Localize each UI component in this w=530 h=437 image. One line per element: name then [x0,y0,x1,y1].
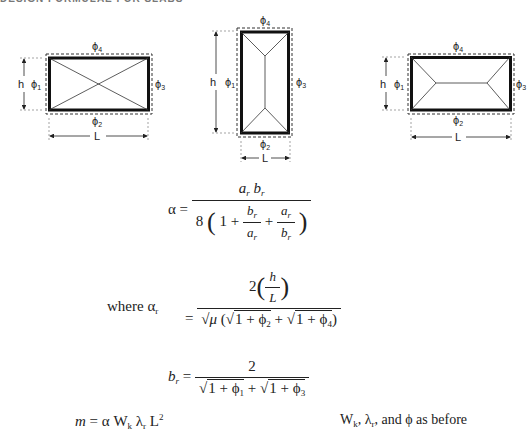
phi2-label: ϕ2 [453,114,463,127]
yield-line [241,32,265,56]
phi1-label: ϕ1 [394,78,404,91]
phi3-label: ϕ3 [516,78,526,91]
diagram-wide: h L ϕ4 ϕ2 ϕ1 ϕ3 [380,40,526,143]
phi3-label: ϕ3 [296,76,306,89]
ar-denominator: √μ (√1 + ϕ2 + √1 + ϕ4) [197,308,341,329]
alpha-lhs: α = [168,201,188,217]
h-label: h [210,76,216,88]
slab-edge [412,58,511,111]
phi1-label: ϕ1 [225,76,235,89]
phi3-label: ϕ3 [155,78,165,91]
br-denominator: √1 + ϕ1 + √1 + ϕ3 [195,377,309,398]
phi1-label: ϕ1 [31,78,41,91]
variables-note: Wk, λr, and ϕ as before [340,412,467,429]
phi2-label: ϕ2 [260,138,270,151]
diagram-tall: h L ϕ4 ϕ2 ϕ1 ϕ3 [210,14,306,164]
alpha-numerator: ar br [192,180,312,200]
phi4-label: ϕ4 [453,40,463,53]
phi4-label: ϕ4 [260,14,270,27]
alpha-formula: α = ar br 8 ( 1 + brar + arbr ) [168,180,311,242]
h-label: h [18,78,24,90]
ar-where-label: where αr [107,298,158,316]
support-boundary [237,28,292,137]
phi4-label: ϕ4 [92,40,102,53]
moment-formula: m = α Wk λr L2 [75,412,164,431]
ar-numerator: 2(hL) [197,269,341,308]
l-label: L [262,152,268,164]
h-label: h [380,78,386,90]
phi2-label: ϕ2 [92,115,102,128]
br-numerator: 2 [195,358,309,377]
support-boundary [408,54,514,114]
diagram-diagonal: h L ϕ4 ϕ2 ϕ1 ϕ3 [18,40,165,142]
ar-fraction: 2(hL) √μ (√1 + ϕ2 + √1 + ϕ4) [197,269,341,329]
br-formula: br = 2 √1 + ϕ1 + √1 + ϕ3 [168,358,309,398]
l-label: L [455,131,461,143]
l-label: L [94,130,100,142]
yield-line [411,57,436,83]
ar-formula: = 2(hL) √μ (√1 + ϕ2 + √1 + ϕ4) [185,269,341,329]
alpha-denominator: 8 ( 1 + brar + arbr ) [192,200,312,242]
alpha-fraction: ar br 8 ( 1 + brar + arbr ) [192,180,312,242]
br-fraction: 2 √1 + ϕ1 + √1 + ϕ3 [195,358,309,398]
yield-line-diagrams: h L ϕ4 ϕ2 ϕ1 ϕ3 h L ϕ4 ϕ2 ϕ1 ϕ3 [0,0,530,170]
